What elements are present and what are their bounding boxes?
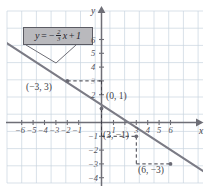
- point-label-neg3-3: (−3, 3): [26, 83, 52, 93]
- point-label-6-neg3: (6, −3): [138, 166, 164, 176]
- y-axis-arrow: [98, 6, 106, 13]
- y-tick-5: 5: [91, 49, 95, 58]
- x-tick-neg2: −2: [61, 126, 71, 135]
- x-tick-neg4: −4: [38, 126, 48, 135]
- equation-sign: −: [48, 30, 55, 41]
- equation-fraction: 2 3: [56, 29, 61, 43]
- dot-0-1: [100, 107, 104, 111]
- x-tick-neg5: −5: [26, 126, 36, 135]
- function-line: [5, 42, 206, 173]
- y-tick-3: 3: [91, 77, 95, 86]
- x-tick-6: 6: [169, 126, 173, 135]
- point-label-0-1: (0, 1): [106, 92, 127, 102]
- x-tick-neg3: −3: [49, 126, 59, 135]
- x-tick-neg6: −6: [15, 126, 25, 135]
- y-tick-neg2: −2: [88, 146, 98, 155]
- graph-figure: y = − 2 3 x + 1 −6 −5 −4 −3 −2 −1 1 2 3 …: [0, 0, 211, 194]
- tick-marks: [22, 40, 171, 178]
- x-tick-4: 4: [146, 126, 150, 135]
- equation-variable: x: [63, 30, 67, 41]
- y-tick-6: 6: [91, 36, 95, 45]
- equation-lhs: y: [35, 30, 39, 41]
- point-label-3-neg1: (3, −1): [103, 131, 129, 141]
- y-tick-neg3: −3: [88, 160, 98, 169]
- x-tick-5: 5: [157, 126, 161, 135]
- dot-6-neg3: [169, 162, 173, 166]
- fraction-denominator: 3: [56, 35, 61, 42]
- dot-neg3-3: [65, 79, 69, 83]
- equation-constant: 1: [76, 30, 81, 41]
- y-tick-2: 2: [91, 91, 95, 100]
- y-tick-4: 4: [91, 63, 95, 72]
- equation-text: y = − 2 3 x + 1: [35, 29, 81, 43]
- y-axis-label: y: [91, 7, 95, 17]
- y-tick-neg1: −1: [88, 132, 98, 141]
- x-tick-neg1: −1: [72, 126, 82, 135]
- equation-callout-box: y = − 2 3 x + 1: [23, 27, 93, 45]
- x-axis-label: x: [199, 127, 203, 137]
- y-tick-neg4: −4: [88, 174, 98, 183]
- equation-plus: +: [68, 30, 75, 41]
- x-tick-3: 3: [134, 126, 138, 135]
- equation-equals: =: [41, 30, 48, 41]
